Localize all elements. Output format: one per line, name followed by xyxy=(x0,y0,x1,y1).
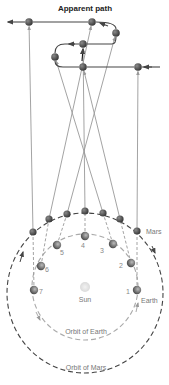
position-number-2: 2 xyxy=(119,262,123,269)
mars-position-7 xyxy=(29,228,36,235)
position-number-3: 3 xyxy=(100,247,104,254)
diagram-title: Apparent path xyxy=(58,4,112,13)
sun-label: Sun xyxy=(79,296,92,303)
mars-label: Mars xyxy=(146,228,162,235)
sun-icon xyxy=(80,282,90,292)
sight-line-near xyxy=(33,232,34,290)
mars-position-6 xyxy=(45,215,52,222)
mars-position-2 xyxy=(116,215,123,222)
earth-orbit-arrow-icon xyxy=(136,303,138,312)
earth-position-7 xyxy=(30,286,38,294)
diagram-canvas: Apparent path 1234567MarsEarthSunOrbit o… xyxy=(0,0,169,385)
mars-position-1 xyxy=(133,227,140,234)
apparent-position-1 xyxy=(134,63,142,71)
sight-line-near xyxy=(120,219,131,263)
position-number-1: 1 xyxy=(126,288,130,295)
apparent-position-4 xyxy=(79,40,87,48)
apparent-path-line xyxy=(33,22,152,67)
sight-line-far xyxy=(84,71,120,219)
earth-position-5 xyxy=(53,241,61,249)
orbit-of-mars-label: Orbit of Mars xyxy=(66,364,107,371)
mars-position-3 xyxy=(99,209,106,216)
apparent-position-2 xyxy=(79,63,87,71)
sight-line-near xyxy=(57,214,67,245)
earth-position-4 xyxy=(81,232,89,240)
apparent-path-loop-arrow xyxy=(100,23,108,26)
sight-line-far xyxy=(29,26,33,232)
mars-position-5 xyxy=(63,210,70,217)
retrograde-motion-diagram: Apparent path 1234567MarsEarthSunOrbit o… xyxy=(0,0,169,385)
apparent-position-7 xyxy=(25,18,33,26)
sight-line-far xyxy=(67,37,115,214)
earth-label: Earth xyxy=(141,297,158,304)
mars-orbit-arrow-icon xyxy=(20,252,23,262)
earth-position-2 xyxy=(127,259,135,267)
orbit-of-earth-label: Orbit of Earth xyxy=(65,328,107,335)
mars-position-4 xyxy=(81,207,88,214)
apparent-position-5 xyxy=(112,29,120,37)
earth-position-1 xyxy=(133,286,141,294)
position-number-7: 7 xyxy=(39,288,43,295)
labels-group: 1234567MarsEarthSunOrbit of EarthOrbit o… xyxy=(39,228,162,371)
sight-line-far xyxy=(56,61,103,213)
position-number-6: 6 xyxy=(45,266,49,273)
sight-line-near xyxy=(41,219,49,266)
earth-position-6 xyxy=(37,262,45,270)
position-number-5: 5 xyxy=(60,249,64,256)
apparent-position-6 xyxy=(88,18,96,26)
sight-line-far xyxy=(137,71,138,231)
position-number-4: 4 xyxy=(81,242,85,249)
earth-position-3 xyxy=(109,240,117,248)
apparent-position-3 xyxy=(51,53,59,61)
